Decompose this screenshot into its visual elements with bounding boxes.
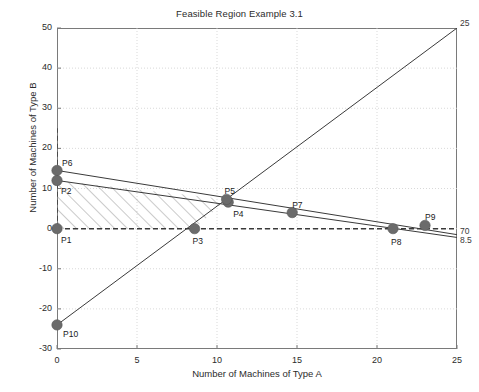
y-tick--10: -10 xyxy=(22,263,52,273)
point-label-p10: P10 xyxy=(63,329,78,339)
data-point-p10 xyxy=(52,320,62,330)
data-point-p1 xyxy=(52,223,62,233)
x-tick-20: 20 xyxy=(357,355,397,365)
point-label-p2: P2 xyxy=(61,186,71,196)
label-70: 70 xyxy=(460,226,469,236)
figure: Feasible Region Example 3.1 0510152025 -… xyxy=(0,0,479,392)
data-point-p2 xyxy=(52,175,62,185)
x-tick-0: 0 xyxy=(37,355,77,365)
point-label-p6: P6 xyxy=(62,158,72,168)
data-point-p8 xyxy=(388,223,398,233)
point-label-p7: P7 xyxy=(292,200,302,210)
x-tick-10: 10 xyxy=(197,355,237,365)
x-tick-25: 25 xyxy=(437,355,477,365)
y-tick--30: -30 xyxy=(22,343,52,353)
x-tick-15: 15 xyxy=(277,355,317,365)
constraint-lines xyxy=(57,28,457,325)
data-point-p3 xyxy=(189,223,199,233)
point-label-p9: P9 xyxy=(425,212,435,222)
x-tick-5: 5 xyxy=(117,355,157,365)
point-label-p1: P1 xyxy=(61,235,71,245)
feasible-region xyxy=(57,180,227,228)
y-axis-label: Number of Machines of Type B xyxy=(27,38,38,258)
x-axis-label: Number of Machines of Type A xyxy=(57,368,457,379)
point-label-p5: P5 xyxy=(225,186,235,196)
label-25: 25 xyxy=(460,18,469,28)
y-tick--20: -20 xyxy=(22,303,52,313)
point-label-p3: P3 xyxy=(193,236,203,246)
label-8-5: 8.5 xyxy=(460,235,472,245)
point-label-p8: P8 xyxy=(391,237,401,247)
data-point-p6 xyxy=(52,165,62,175)
y-tick-50: 50 xyxy=(22,22,52,32)
point-label-p4: P4 xyxy=(233,209,243,219)
